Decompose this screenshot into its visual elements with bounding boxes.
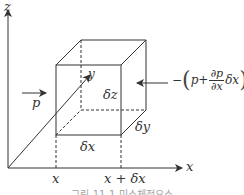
fraction-numerator: ∂p [209, 68, 224, 81]
y-axis-label: y [88, 68, 95, 80]
fraction-denominator: ∂x [211, 81, 223, 93]
right-pressure-expression: −(p+∂p∂xδx) [172, 68, 244, 92]
left-paren: ( [182, 67, 191, 92]
x-position-label: x [52, 172, 59, 185]
minus-sign: − [172, 73, 182, 87]
figure-caption: 그림 11-1 미소체적요소 [0, 186, 244, 195]
right-paren: ) [239, 67, 244, 92]
dx-label: δx [80, 140, 95, 153]
z-axis-label: z [4, 0, 11, 13]
x-plus-dx-label: x + δx [104, 172, 146, 185]
dy-label: δy [135, 120, 150, 133]
x-axis-label: x [186, 160, 193, 173]
y-axis [8, 75, 90, 168]
plus-sign: + [198, 73, 208, 87]
partial-fraction: ∂p∂x [209, 68, 224, 92]
left-pressure-label: p [32, 96, 40, 109]
dx-term: δx [225, 73, 239, 87]
fluid-element-diagram: z x y δz δy δx x x + δx p −(p+∂p∂xδx) 그림… [0, 0, 244, 195]
dz-label: δz [103, 88, 118, 101]
